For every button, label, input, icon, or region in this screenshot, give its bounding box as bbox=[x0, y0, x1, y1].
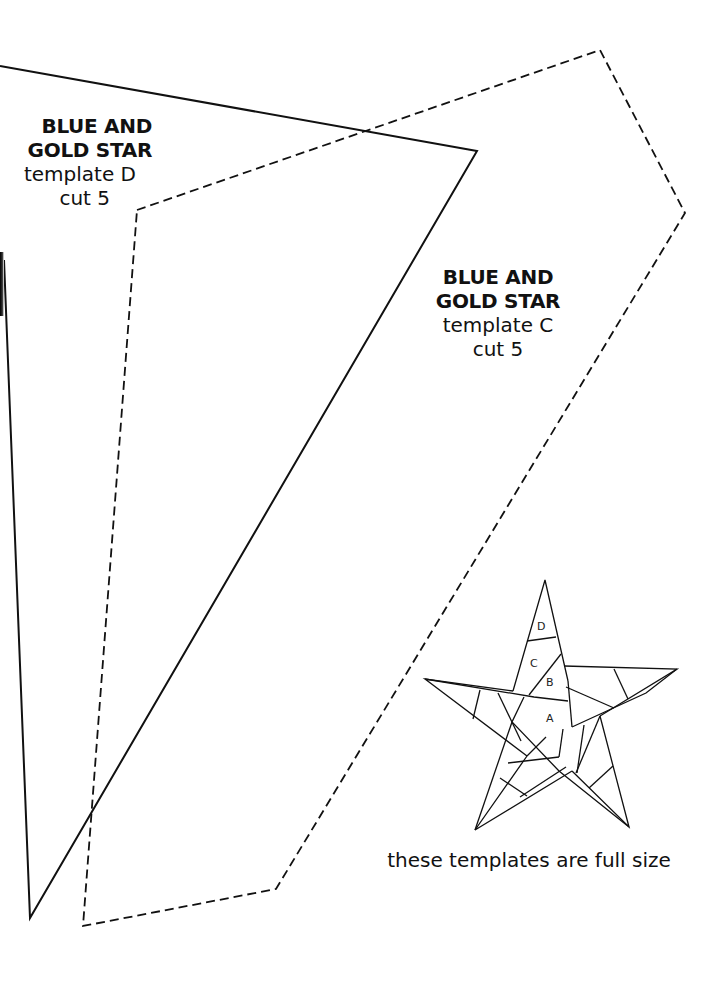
template-d-title-line2: GOLD STAR bbox=[2, 138, 152, 162]
star-diagram bbox=[425, 580, 677, 830]
template-c-title-line1: BLUE AND bbox=[418, 265, 578, 289]
template-d-name: template D bbox=[2, 162, 152, 186]
piece-label-a: A bbox=[546, 712, 554, 725]
template-c-outline bbox=[83, 50, 685, 926]
piece-label-b: B bbox=[546, 676, 554, 689]
template-c-title-line2: GOLD STAR bbox=[418, 289, 578, 313]
piece-label-c: C bbox=[530, 657, 538, 670]
star-piece-labels: D C B A bbox=[530, 620, 554, 725]
piece-label-d: D bbox=[537, 620, 545, 633]
template-d-title-line1: BLUE AND bbox=[2, 114, 152, 138]
scan-edge-shadow bbox=[0, 252, 4, 316]
template-d-cut-count: cut 5 bbox=[2, 186, 152, 210]
template-c-cut-count: cut 5 bbox=[418, 337, 578, 361]
template-c-name: template C bbox=[418, 313, 578, 337]
full-size-caption: these templates are full size bbox=[384, 848, 674, 872]
template-d-label: BLUE AND GOLD STAR template D cut 5 bbox=[2, 114, 152, 210]
template-c-label: BLUE AND GOLD STAR template C cut 5 bbox=[418, 265, 578, 361]
